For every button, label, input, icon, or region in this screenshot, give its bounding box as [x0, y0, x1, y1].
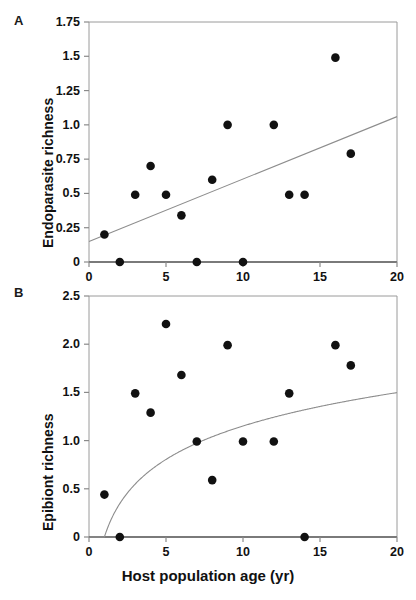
data-point-a-13 [331, 53, 340, 62]
y-tick-label-b-2: 1.0 [0, 434, 80, 448]
x-tick-label-a-0: 0 [86, 270, 93, 284]
x-tick-label-b-1: 5 [163, 545, 170, 559]
regression-curve-b [90, 393, 397, 537]
y-tick-label-a-7: 1.75 [0, 15, 80, 29]
data-point-a-2 [131, 191, 140, 200]
data-point-a-6 [193, 258, 202, 267]
data-point-b-7 [208, 476, 217, 485]
x-tick-label-b-4: 20 [390, 545, 404, 559]
data-point-b-2 [131, 389, 140, 398]
data-point-b-11 [285, 389, 294, 398]
data-point-b-3 [146, 408, 155, 417]
y-tick-label-a-3: 0.75 [0, 152, 80, 166]
y-tick-label-a-0: 0 [0, 255, 80, 269]
plot-frame-a [89, 22, 397, 262]
data-point-b-13 [331, 341, 340, 350]
regression-line-a [89, 117, 397, 242]
data-point-b-10 [270, 437, 279, 446]
y-tick-label-b-3: 1.5 [0, 385, 80, 399]
data-point-a-10 [270, 121, 279, 130]
x-tick-label-a-2: 10 [236, 270, 250, 284]
data-point-a-14 [347, 149, 356, 158]
data-point-a-1 [116, 258, 125, 267]
data-point-a-12 [300, 191, 309, 200]
data-point-b-4 [162, 320, 171, 329]
data-point-a-4 [162, 191, 171, 200]
y-tick-label-b-1: 0.5 [0, 482, 80, 496]
figure-container: A B Endoparasite richness Epibiont richn… [0, 0, 416, 600]
data-point-b-6 [193, 437, 202, 446]
data-point-b-5 [177, 371, 186, 380]
data-point-b-8 [223, 341, 232, 350]
y-tick-label-a-2: 0.5 [0, 186, 80, 200]
data-point-b-0 [100, 490, 109, 499]
y-tick-label-a-1: 0.25 [0, 221, 80, 235]
x-tick-label-b-2: 10 [236, 545, 250, 559]
panel-a-graphics [84, 22, 397, 267]
data-point-b-14 [347, 361, 356, 370]
data-point-a-5 [177, 211, 186, 220]
x-tick-label-a-1: 5 [163, 270, 170, 284]
y-tick-label-b-5: 2.5 [0, 289, 80, 303]
panel-b-graphics [84, 296, 397, 542]
data-point-a-7 [208, 175, 217, 184]
x-tick-label-a-4: 20 [390, 270, 404, 284]
data-point-a-11 [285, 191, 294, 200]
data-point-a-8 [223, 121, 232, 130]
plot-frame-b [89, 296, 397, 537]
y-tick-label-b-4: 2.0 [0, 337, 80, 351]
data-point-a-0 [100, 230, 109, 239]
x-tick-label-b-0: 0 [86, 545, 93, 559]
data-point-a-3 [146, 162, 155, 171]
y-tick-label-b-0: 0 [0, 530, 80, 544]
y-tick-label-a-4: 1.0 [0, 118, 80, 132]
y-tick-label-a-5: 1.25 [0, 84, 80, 98]
data-point-b-9 [239, 437, 248, 446]
x-tick-label-a-3: 15 [313, 270, 327, 284]
data-point-a-9 [239, 258, 248, 267]
data-point-b-12 [300, 533, 309, 542]
x-tick-label-b-3: 15 [313, 545, 327, 559]
y-tick-label-a-6: 1.5 [0, 49, 80, 63]
data-point-b-1 [116, 533, 125, 542]
